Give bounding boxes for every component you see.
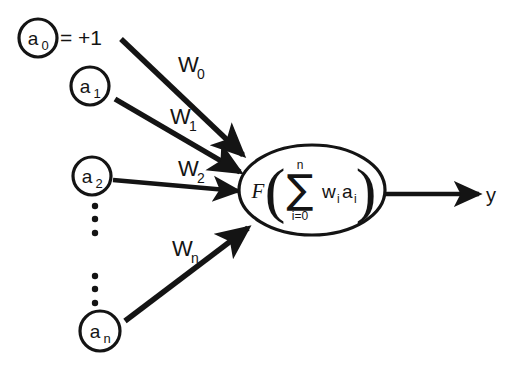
- node-label-a1: a: [80, 76, 91, 97]
- weight-label-wn-text: W: [172, 236, 193, 261]
- weight-label-w2-text: W: [178, 156, 199, 181]
- weight-label-w0-subscript: 0: [197, 66, 205, 82]
- node-subscript-a2: 2: [95, 176, 102, 191]
- node-label-an: a: [90, 321, 101, 342]
- sigma-lower-limit: i=0: [292, 209, 309, 223]
- node-label-a2: a: [82, 166, 93, 187]
- summand-weight: w: [321, 181, 336, 202]
- expression-right-paren: ): [356, 156, 377, 225]
- ellipsis-dot: [92, 300, 98, 306]
- ellipsis-dot: [92, 273, 98, 279]
- weight-label-w1-text: W: [170, 104, 191, 129]
- edge-a2-to-neuron: [113, 180, 238, 191]
- activation-function-symbol: F: [251, 179, 265, 203]
- ellipsis-lower: [92, 273, 98, 306]
- ellipsis-upper: [92, 203, 98, 236]
- node-subscript-a1: 1: [93, 86, 100, 101]
- diagram-canvas: F ( n ∑ i=0 w i a i ) y a 0 = +1 a 1: [0, 0, 522, 368]
- weight-label-w0: W 0: [178, 52, 205, 82]
- weight-label-wn: W n: [172, 236, 199, 266]
- summand-activation: a: [342, 181, 353, 202]
- node-subscript-an: n: [103, 331, 110, 346]
- weight-label-w2: W 2: [178, 156, 205, 186]
- input-node-a0: a 0 = +1: [19, 19, 102, 57]
- ellipsis-dot: [92, 286, 98, 292]
- weight-label-w2-subscript: 2: [197, 170, 205, 186]
- input-node-a1: a 1: [71, 67, 109, 105]
- weight-label-wn-subscript: n: [191, 250, 199, 266]
- weight-label-w1-subscript: 1: [189, 118, 197, 134]
- output-label: y: [486, 184, 496, 206]
- neuron-diagram: F ( n ∑ i=0 w i a i ) y a 0 = +1 a 1: [0, 0, 522, 368]
- sigma-symbol: ∑: [287, 166, 314, 212]
- output-group: y: [384, 184, 496, 206]
- ellipsis-dot: [92, 216, 98, 222]
- input-node-a2: a 2: [73, 157, 111, 195]
- weight-label-w0-text: W: [178, 52, 199, 77]
- node-subscript-a0: 0: [41, 38, 48, 53]
- node-label-a0: a: [28, 28, 39, 49]
- ellipsis-dot: [92, 230, 98, 236]
- ellipsis-dot: [92, 203, 98, 209]
- expression-left-paren: (: [265, 156, 286, 225]
- input-node-an: a n: [80, 311, 120, 351]
- bias-value-annotation: = +1: [60, 26, 102, 49]
- summand-weight-subscript: i: [337, 192, 340, 206]
